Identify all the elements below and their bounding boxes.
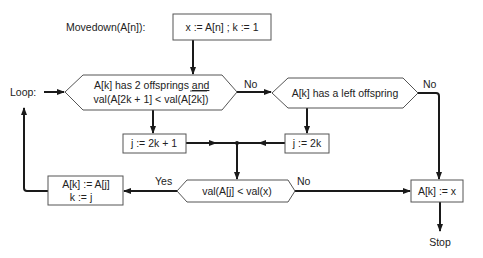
loop-label: Loop:: [10, 86, 36, 98]
and-keyword: and: [192, 79, 210, 91]
swap-text-line1: A[k] := A[j]: [62, 178, 110, 190]
assign-j-2k1-text: j := 2k + 1: [130, 137, 177, 149]
flowchart-canvas: Movedown(A[n]): x := A[n] ; k := 1 Loop:…: [0, 0, 483, 258]
assign-j-2k-text: j := 2k: [292, 137, 322, 149]
swap-text-line2: k := j: [70, 191, 92, 203]
stop-label: Stop: [429, 236, 451, 248]
cond2-no-label: No: [423, 78, 437, 90]
cond-compare-text: val(A[j] < val(x): [202, 185, 272, 197]
procedure-title: Movedown(A[n]):: [66, 21, 145, 33]
cond-left-offspring-text: A[k] has a left offspring: [292, 87, 399, 99]
compare-yes-label: Yes: [155, 175, 172, 187]
edge-loop-back: [24, 108, 48, 191]
final-assign-text: A[k] := x: [418, 185, 457, 197]
init-text: x := A[n] ; k := 1: [186, 21, 259, 33]
cond-two-offspring-text-line2: val(A[2k + 1] < val(A[2k]): [94, 93, 209, 105]
cond-two-offspring-text-line1: A[k] has 2 offsprings and: [94, 79, 210, 91]
cond1-no-label: No: [244, 78, 258, 90]
edge-cond2-no: [418, 93, 439, 179]
compare-no-label: No: [297, 175, 311, 187]
